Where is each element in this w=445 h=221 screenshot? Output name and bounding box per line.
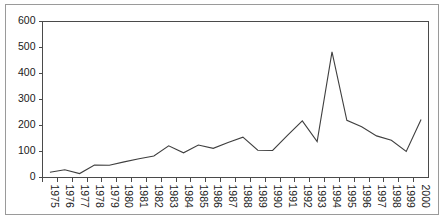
x-axis-tick-label: 1985 bbox=[198, 185, 210, 209]
x-axis-tick-label: 1990 bbox=[272, 185, 284, 209]
y-axis-tick-labels: 0100200300400500600 bbox=[18, 14, 36, 182]
x-axis-tick-label: 1999 bbox=[405, 185, 417, 209]
x-axis-tick-label: 1981 bbox=[138, 185, 150, 209]
x-axis-tick-label: 1975 bbox=[49, 185, 61, 209]
x-axis-tick-label: 1991 bbox=[287, 185, 299, 209]
x-axis-tick-label: 1979 bbox=[109, 185, 121, 209]
x-axis-tick-label: 1980 bbox=[123, 185, 135, 209]
x-axis-tick-label: 1992 bbox=[302, 185, 314, 209]
x-axis-tick-label: 1982 bbox=[153, 185, 165, 209]
x-axis-tick-label: 1995 bbox=[346, 185, 358, 209]
y-axis-tick-label: 500 bbox=[18, 40, 36, 52]
x-axis-tick-labels: 1975197619771978197919801981198219831984… bbox=[49, 185, 432, 209]
plot-area-frame bbox=[43, 22, 429, 178]
x-axis-tick-label: 1976 bbox=[64, 185, 76, 209]
x-axis-tick-label: 1984 bbox=[183, 185, 195, 209]
x-axis-tick-label: 1997 bbox=[376, 185, 388, 209]
chart-screenshot: 0100200300400500600 19751976197719781979… bbox=[0, 0, 445, 221]
line-chart: 0100200300400500600 19751976197719781979… bbox=[0, 0, 445, 221]
x-axis-tick-label: 1993 bbox=[316, 185, 328, 209]
x-axis-tick-label: 1986 bbox=[212, 185, 224, 209]
x-axis-tick-label: 1994 bbox=[331, 185, 343, 209]
y-axis-tick-label: 200 bbox=[18, 118, 36, 130]
data-series-line bbox=[50, 52, 421, 174]
y-axis-tick-label: 300 bbox=[18, 92, 36, 104]
y-axis-tick-label: 0 bbox=[30, 170, 36, 182]
y-axis-tick-label: 100 bbox=[18, 144, 36, 156]
x-axis-ticks bbox=[43, 178, 414, 182]
x-axis-tick-label: 2000 bbox=[420, 185, 432, 209]
x-axis-tick-label: 1998 bbox=[391, 185, 403, 209]
x-axis-tick-label: 1977 bbox=[79, 185, 91, 209]
y-axis-tick-label: 600 bbox=[18, 14, 36, 26]
x-axis-tick-label: 1987 bbox=[227, 185, 239, 209]
x-axis-tick-label: 1996 bbox=[361, 185, 373, 209]
x-axis-tick-label: 1978 bbox=[94, 185, 106, 209]
y-axis-tick-label: 400 bbox=[18, 66, 36, 78]
chart-canvas: 0100200300400500600 19751976197719781979… bbox=[0, 0, 445, 221]
x-axis-tick-label: 1983 bbox=[168, 185, 180, 209]
y-axis-ticks bbox=[39, 22, 43, 178]
x-axis-tick-label: 1988 bbox=[242, 185, 254, 209]
x-axis-tick-label: 1989 bbox=[257, 185, 269, 209]
